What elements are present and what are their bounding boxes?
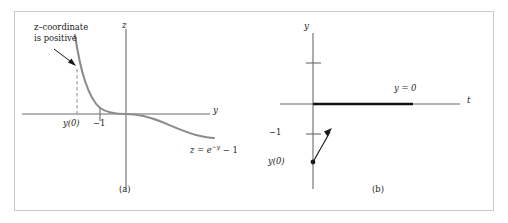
panel-b-horizontal-axis-label: t [467,95,470,105]
panel-a-horizontal-axis-label: y [213,105,218,115]
figure-container: z–coordinate is positive z y y(0) −1 z =… [0,0,508,223]
equation-constant: 1 [233,145,238,155]
panel-a-annotation-arrow [54,49,76,66]
equation-exponent: −y [212,143,220,150]
equation-minus: − [220,145,232,155]
panel-b-direction-arrow [313,128,332,162]
panel-a-annotation-line2: is positive [34,33,88,44]
panel-b-equilibrium-label: y = 0 [394,83,416,94]
panel-b-label-y-initial: y(0) [268,156,285,166]
panel-b-graphic [268,11,494,211]
panel-a-annotation-line1: z–coordinate [34,22,88,33]
panel-a-annotation: z–coordinate is positive [34,22,88,43]
panel-a-vertical-axis-label: z [122,20,127,30]
panel-a-curve-equation: z = e−y − 1 [190,143,238,155]
equation-equals: = [194,145,206,155]
panel-a-caption: (a) [119,184,131,194]
panel-a-label-y-initial: y(0) [63,118,80,128]
panel-a-label-minus-one: −1 [93,118,105,128]
panel-b-vertical-axis-label: y [304,21,309,31]
panel-b-caption: (b) [372,184,384,194]
panel-b-label-minus-one: −1 [269,127,281,137]
panel-b-equilibrium-label-text: y = 0 [394,83,416,93]
